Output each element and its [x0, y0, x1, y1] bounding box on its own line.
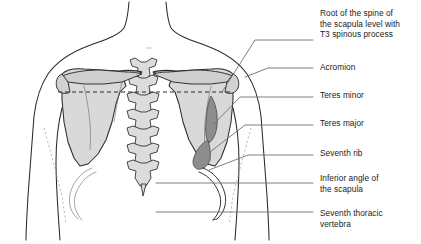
label-inferior-angle-of-scapula: Inferior angle of the scapula	[320, 173, 379, 194]
label-acromion: Acromion	[320, 62, 355, 73]
label-layer: Root of the spine of the scapula level w…	[0, 0, 421, 244]
label-teres-major: Teres major	[320, 118, 364, 129]
label-seventh-rib: Seventh rib	[320, 148, 363, 159]
anatomy-figure: Root of the spine of the scapula level w…	[0, 0, 421, 244]
label-teres-minor: Teres minor	[320, 90, 364, 101]
label-seventh-thoracic-vertebra: Seventh thoracic vertebra	[320, 208, 383, 229]
label-root-of-spine-of-scapula: Root of the spine of the scapula level w…	[320, 8, 400, 40]
